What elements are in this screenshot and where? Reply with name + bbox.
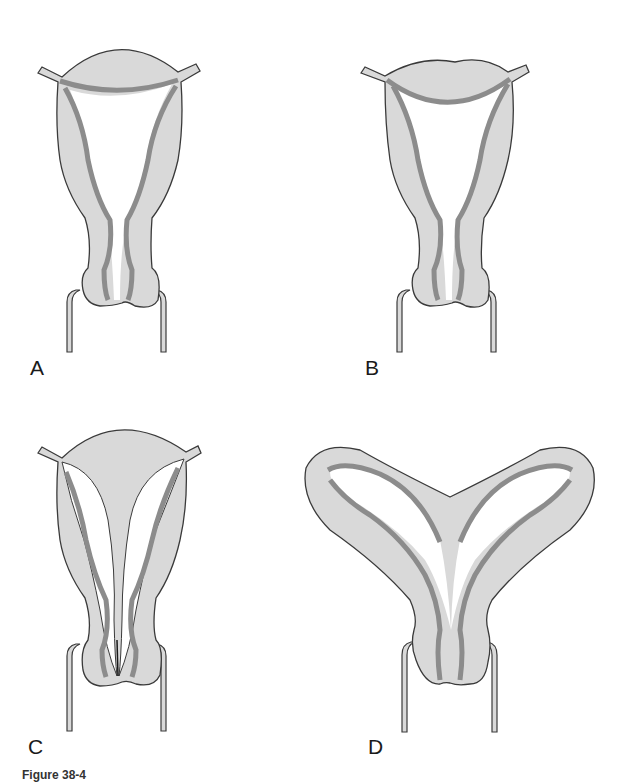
figure-caption: Figure 38-4: [22, 768, 86, 782]
uterus-d-illustration: [0, 0, 619, 783]
panel-label-d: D: [368, 736, 383, 757]
panel-d: D: [0, 0, 619, 783]
